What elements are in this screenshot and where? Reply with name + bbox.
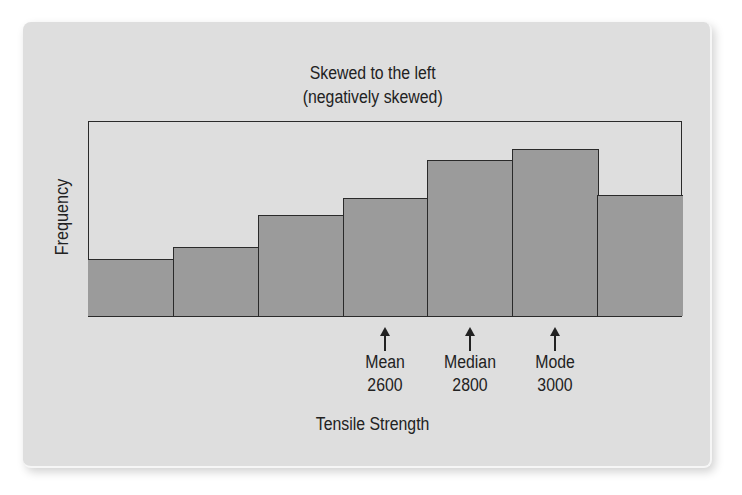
histogram-bar <box>343 198 429 316</box>
chart-title: Skewed to the left <box>46 63 699 84</box>
histogram-bar <box>258 215 344 316</box>
chart-subtitle: (negatively skewed) <box>46 87 699 108</box>
stat-label: Median <box>435 351 505 374</box>
up-arrow-icon <box>463 327 477 351</box>
stat-label: Mode <box>520 351 590 374</box>
histogram-bar <box>597 195 683 316</box>
up-arrow-icon <box>548 327 562 351</box>
y-axis-label: Frequency <box>52 179 73 256</box>
histogram-plot-area <box>88 121 682 317</box>
stat-label: Mean <box>350 351 420 374</box>
up-arrow-icon <box>378 327 392 351</box>
histogram-bar <box>427 160 513 316</box>
histogram-bar <box>512 149 598 316</box>
stat-value: 2800 <box>435 374 505 397</box>
stat-value: 2600 <box>350 374 420 397</box>
histogram-bar <box>88 259 174 316</box>
stat-marker-mean: Mean2600 <box>345 327 425 397</box>
x-axis-label: Tensile Strength <box>46 414 699 435</box>
stat-value: 3000 <box>520 374 590 397</box>
stat-marker-mode: Mode3000 <box>515 327 595 397</box>
stat-marker-median: Median2800 <box>430 327 510 397</box>
histogram-bar <box>173 247 259 316</box>
